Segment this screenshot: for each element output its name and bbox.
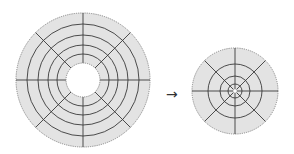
right-disk xyxy=(192,48,278,134)
right-disk-hole xyxy=(233,89,237,93)
disk-transformation-diagram: → xyxy=(0,0,294,154)
left-disk-hole xyxy=(66,63,100,97)
left-disk xyxy=(16,13,150,147)
arrow-right-icon: → xyxy=(166,86,178,102)
